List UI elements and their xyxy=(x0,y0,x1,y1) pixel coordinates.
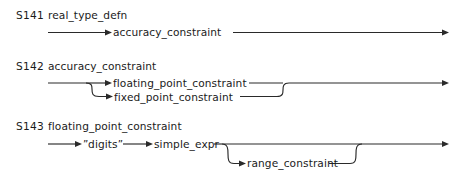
s143-terminal-digits: ”digits” xyxy=(83,138,123,151)
s143-nonterminal-simple-expr: simple_expr xyxy=(154,138,219,150)
s142-bottom-branch-arrowhead xyxy=(106,93,113,99)
s143-exit-arrowhead xyxy=(442,141,449,147)
syntax-diagram-page: S141 real_type_defn accuracy_constraint … xyxy=(0,0,459,177)
s142-nonterminal-floating-point-constraint: floating_point_constraint xyxy=(113,77,247,89)
s143-optional-down-rail xyxy=(222,144,240,164)
production-name-s143: floating_point_constraint xyxy=(48,120,182,132)
s141-exit-arrowhead xyxy=(442,29,449,35)
s142-bottom-merge-rail xyxy=(240,83,443,97)
s143-optional-up-rail xyxy=(329,144,443,164)
s143-range-constraint-arrowhead xyxy=(239,160,246,166)
s141-entry-arrowhead xyxy=(105,29,112,35)
s143-entry-arrowhead xyxy=(75,141,82,147)
s142-nonterminal-fixed-point-constraint: fixed_point_constraint xyxy=(114,91,233,103)
s143-digits-text: digits xyxy=(88,138,118,150)
production-id-s141: S141 xyxy=(16,9,44,21)
s143-simpleexpr-arrowhead xyxy=(146,141,153,147)
s141-rail-group xyxy=(48,29,449,35)
s141-nonterminal-accuracy-constraint: accuracy_constraint xyxy=(113,26,221,38)
s142-top-branch-arrowhead xyxy=(105,80,112,86)
production-id-s143: S143 xyxy=(16,120,44,132)
s142-rail-group xyxy=(48,80,449,100)
s142-bottom-branch-rail xyxy=(86,83,107,97)
production-id-s142: S142 xyxy=(16,60,44,72)
s143-nonterminal-range-constraint: range_constraint xyxy=(247,157,338,169)
production-name-s141: real_type_defn xyxy=(48,9,127,21)
production-name-s142: accuracy_constraint xyxy=(48,60,156,72)
s143-digits-close-quote: ” xyxy=(118,139,123,150)
s142-exit-arrowhead xyxy=(442,80,449,86)
